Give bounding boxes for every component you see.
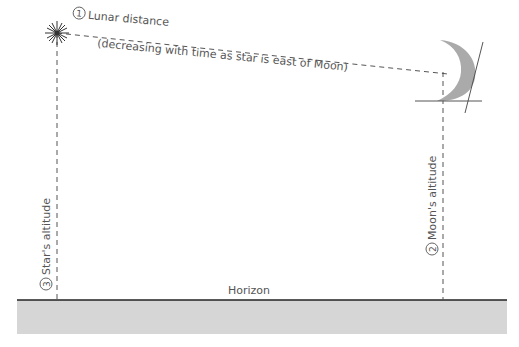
ground xyxy=(17,300,507,334)
svg-text:3: 3 xyxy=(42,281,52,287)
svg-text:(decreasing with time as star: (decreasing with time as star is east of… xyxy=(97,37,349,74)
lunar-distance-label: 1 Lunar distance xyxy=(72,7,169,29)
moon-altitude-label: 2 Moon's altitude xyxy=(426,155,439,255)
lunar-distance-diagram: 1 Lunar distance (decreasing with time a… xyxy=(0,0,519,347)
svg-text:Star's altitude: Star's altitude xyxy=(40,198,53,275)
horizon-label: Horizon xyxy=(228,284,270,297)
svg-text:2: 2 xyxy=(428,246,438,252)
star-icon xyxy=(45,21,69,45)
lunar-distance-note: (decreasing with time as star is east of… xyxy=(97,37,349,74)
svg-text:Moon's altitude: Moon's altitude xyxy=(426,155,439,240)
svg-text:Lunar distance: Lunar distance xyxy=(87,9,169,29)
svg-text:1: 1 xyxy=(76,8,83,18)
star-altitude-label: 3 Star's altitude xyxy=(40,198,53,290)
